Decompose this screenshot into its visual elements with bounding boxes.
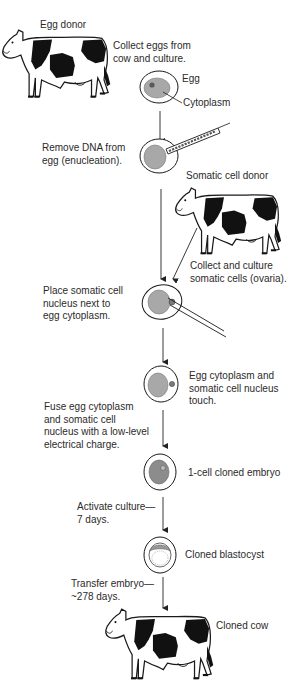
egg-cell-illustration (140, 71, 182, 103)
label-place-nucleus: Place somatic cell nucleus next to egg c… (43, 285, 123, 323)
egg-donor-cow-illustration (3, 30, 110, 98)
label-activate: Activate culture— 7 days. (77, 501, 155, 526)
label-transfer: Transfer embryo— ~278 days. (71, 578, 154, 603)
enucleation-illustration (140, 123, 230, 173)
label-line: and somatic cell (44, 414, 149, 427)
label-remove-dna: Remove DNA from egg (enucleation). (42, 142, 125, 167)
label-line: somatic cells (ovaria). (190, 273, 287, 286)
somatic-donor-cow-illustration (176, 188, 281, 254)
label-line: nucleus with a low-level (44, 426, 149, 439)
label-cloned-cow: Cloned cow (216, 620, 268, 633)
label-line: ~278 days. (71, 591, 154, 604)
nucleus-placement-illustration (138, 280, 226, 337)
label-collect-eggs: Collect eggs from cow and culture. (113, 40, 191, 65)
label-line: Transfer embryo— (71, 578, 154, 591)
label-line: Place somatic cell (43, 285, 123, 298)
label-line: Activate culture— (77, 501, 155, 514)
label-line: egg (enucleation). (42, 155, 125, 168)
label-line: cow and culture. (113, 53, 191, 66)
label-collect-somatic: Collect and culture somatic cells (ovari… (190, 260, 287, 285)
label-cytoplasm: Cytoplasm (183, 97, 230, 110)
label-line: Collect eggs from (113, 40, 191, 53)
label-egg-donor: Egg donor (40, 19, 86, 32)
label-touch: Egg cytoplasm and somatic cell nucleus t… (189, 370, 278, 408)
label-line: 7 days. (77, 514, 155, 527)
label-fuse: Fuse egg cytoplasm and somatic cell nucl… (44, 401, 149, 451)
label-line: Remove DNA from (42, 142, 125, 155)
one-cell-embryo-illustration (144, 454, 176, 490)
touching-cell-illustration (144, 366, 178, 402)
label-line: Egg cytoplasm and (189, 370, 278, 383)
label-line: Fuse egg cytoplasm (44, 401, 149, 414)
label-line: nucleus next to (43, 298, 123, 311)
label-line: somatic cell nucleus (189, 383, 278, 396)
label-blastocyst: Cloned blastocyst (185, 549, 264, 562)
label-line: Collect and culture (190, 260, 287, 273)
label-egg: Egg (182, 73, 200, 86)
label-line: electrical charge. (44, 439, 149, 452)
cloned-cow-illustration (106, 609, 213, 679)
label-line: touch. (189, 395, 278, 408)
blastocyst-illustration (144, 537, 176, 573)
label-line: egg cytoplasm. (43, 310, 123, 323)
label-one-cell-embryo: 1-cell cloned embryo (188, 467, 280, 480)
label-somatic-donor: Somatic cell donor (186, 170, 268, 183)
